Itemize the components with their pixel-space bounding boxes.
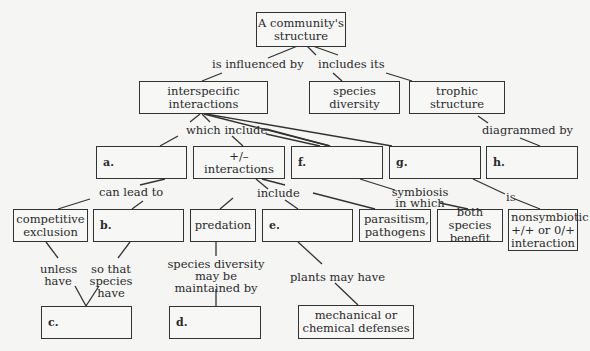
node-label: A community's structure (257, 17, 345, 43)
node-e-blank[interactable]: e. (262, 209, 353, 242)
node-g-blank[interactable]: g. (389, 146, 481, 179)
node-c-blank[interactable]: c. (41, 306, 132, 339)
node-label: parasitism, pathogens (364, 213, 426, 239)
node-community-structure: A community's structure (256, 12, 346, 47)
node-label: competitive exclusion (14, 213, 87, 239)
link-text: unless have (40, 263, 76, 287)
node-label: nonsymbiotic +/+ or 0/+ interaction (511, 211, 575, 250)
node-label: both species benefit (439, 206, 501, 245)
node-interspecific-interactions: interspecific interactions (139, 81, 268, 114)
concept-map: A community's structure is influenced by… (0, 0, 590, 351)
node-letter: f. (298, 156, 306, 169)
link-include: include (257, 187, 300, 199)
node-label: mechanical or chemical defenses (302, 309, 410, 335)
node-letter: c. (48, 316, 59, 329)
node-d-blank[interactable]: d. (169, 306, 261, 339)
node-letter: a. (103, 156, 114, 169)
node-competitive-exclusion: competitive exclusion (13, 209, 88, 242)
link-is-influenced-by: is influenced by (212, 58, 304, 70)
node-label: predation (195, 219, 252, 232)
node-mechanical-chemical-defenses: mechanical or chemical defenses (298, 305, 414, 339)
link-includes-its: includes its (318, 58, 385, 70)
link-species-diversity-maintained: species diversity may be maintained by (167, 258, 265, 294)
link-can-lead-to: can lead to (99, 186, 163, 198)
node-predation: predation (190, 209, 256, 242)
node-letter: e. (269, 219, 280, 232)
node-trophic-structure: trophic structure (409, 81, 505, 114)
node-nonsymbiotic-interaction: nonsymbiotic +/+ or 0/+ interaction (508, 209, 578, 251)
node-both-species-benefit: both species benefit (437, 209, 503, 242)
node-letter: h. (493, 156, 505, 169)
link-is: is (506, 191, 516, 203)
node-label: trophic structure (410, 85, 504, 111)
node-species-diversity: species diversity (309, 81, 400, 114)
node-label: interspecific interactions (140, 85, 267, 111)
node-label: +/– interactions (194, 150, 284, 176)
node-a-blank[interactable]: a. (96, 146, 187, 179)
node-letter: b. (100, 219, 112, 232)
node-plus-minus-interactions: +/– interactions (193, 146, 285, 179)
link-diagrammed-by: diagrammed by (482, 124, 573, 136)
node-letter: g. (396, 156, 408, 169)
link-so-that-species-have: so that species have (80, 263, 142, 299)
link-plants-may-have: plants may have (290, 271, 385, 283)
node-letter: d. (176, 316, 188, 329)
node-h-blank[interactable]: h. (486, 146, 578, 179)
node-parasitism-pathogens: parasitism, pathogens (359, 209, 431, 242)
node-f-blank[interactable]: f. (291, 146, 383, 179)
link-which-include: which include (186, 124, 267, 136)
node-label: species diversity (310, 85, 399, 111)
link-text: so that species have (80, 263, 142, 299)
node-b-blank[interactable]: b. (93, 209, 184, 242)
link-unless-have: unless have (40, 263, 76, 287)
link-text: species diversity may be maintained by (167, 258, 265, 294)
